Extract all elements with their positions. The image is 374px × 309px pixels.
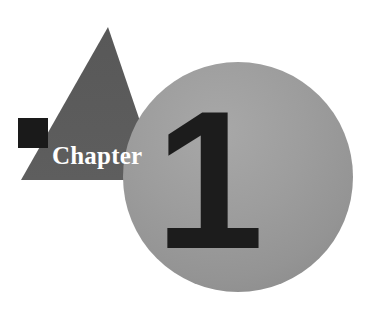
chapter-label: Chapter [52,142,142,169]
chapter-opener-page: Chapter 1 [0,0,374,309]
chapter-number: 1 [155,71,264,290]
chapter-opener-artwork: Chapter 1 [0,0,374,309]
square-shape [18,118,48,148]
